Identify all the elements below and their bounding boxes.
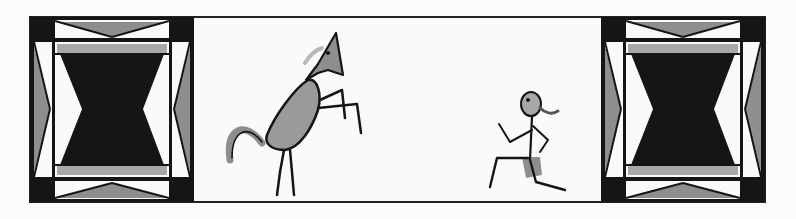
illustration	[0, 0, 796, 219]
left-hourglass-panel	[30, 17, 194, 202]
right-hourglass-panel	[601, 17, 765, 202]
